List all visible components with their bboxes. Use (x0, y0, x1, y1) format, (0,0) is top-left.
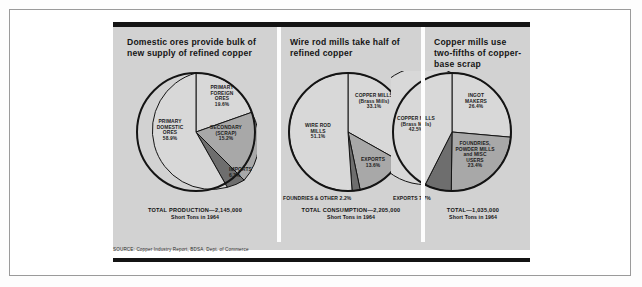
label-wire-rod-mills: WIRE ROD MILLS 51.1% (292, 123, 344, 140)
panel-scrap: Copper mills use two-fifths of copper-ba… (425, 27, 530, 242)
label-ingot-makers: INGOT MAKERS 26.4% (453, 93, 499, 110)
label-primary-foreign-ores: PRIMARY FOREIGN ORES 19.6% (198, 85, 246, 107)
pie-chart-production: PRIMARY DOMESTIC ORES 58.9% PRIMARY FORE… (135, 71, 257, 193)
label-foundries-powder-mills: FOUNDRIES, POWDER MILLS and MISC USERS 2… (446, 141, 504, 169)
panel-gutter-2 (421, 27, 425, 242)
label-exports-outside: EXPORTS 7.7% (393, 195, 431, 201)
panel-gutter-1 (277, 27, 281, 242)
panel-title-consumption: Wire rod mills take half of refined copp… (290, 37, 415, 59)
label-primary-domestic-ores: PRIMARY DOMESTIC ORES 58.9% (141, 119, 199, 141)
figure-page: Domestic ores provide bulk of new supply… (0, 0, 642, 287)
label-copper-mills: COPPER MILLS (Brass Mills) 42.5% (387, 116, 445, 133)
pie-chart-scrap: COPPER MILLS (Brass Mills) 42.5% INGOT M… (391, 71, 513, 193)
panel-production: Domestic ores provide bulk of new supply… (113, 27, 277, 242)
total-consumption: TOTAL CONSUMPTION—2,205,000 Short Tons i… (281, 207, 421, 222)
bottom-rule (113, 258, 530, 262)
label-imports: IMPORTS 6.3% (229, 167, 271, 178)
total-production: TOTAL PRODUCTION—2,145,000 Short Tons in… (113, 207, 277, 222)
label-secondary-scrap: SECONDARY (SCRAP) 15.2% (201, 125, 251, 142)
panel-title-production: Domestic ores provide bulk of new supply… (127, 37, 271, 59)
panel-title-scrap: Copper mills use two-fifths of copper-ba… (434, 37, 524, 71)
source-note: SOURCE: Copper Industry Report, BDSA, De… (113, 247, 249, 252)
label-foundries-other: FOUNDRIES & OTHER 2.2% (283, 195, 351, 201)
label-exports: EXPORTS 13.6% (351, 157, 395, 168)
